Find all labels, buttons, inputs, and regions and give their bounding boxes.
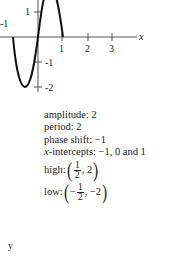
- corner-label: -1: [0, 18, 8, 29]
- low-point: low: ( − 12 , −2 ): [44, 182, 146, 202]
- footer-y-label: y: [8, 240, 13, 251]
- x-tick-2: 2: [85, 43, 90, 54]
- sine-graph: -1 1 2 3 x 1 -1 -2: [0, 0, 171, 100]
- x-tick-1: 1: [59, 43, 64, 54]
- y-tick-1: 1: [25, 6, 30, 17]
- high-point: high: ( 12 , 2 ): [44, 160, 146, 180]
- phase-shift-text: phase shift: −1: [44, 134, 146, 146]
- y-tick-neg1: -1: [45, 57, 53, 68]
- x-tick-3: 3: [109, 43, 114, 54]
- graph-properties: amplitude: 2 period: 2 phase shift: −1 x…: [44, 109, 146, 202]
- amplitude-text: amplitude: 2: [44, 109, 146, 121]
- x-axis-label: x: [138, 31, 144, 42]
- y-tick-neg2: -2: [45, 82, 53, 93]
- period-text: period: 2: [44, 121, 146, 133]
